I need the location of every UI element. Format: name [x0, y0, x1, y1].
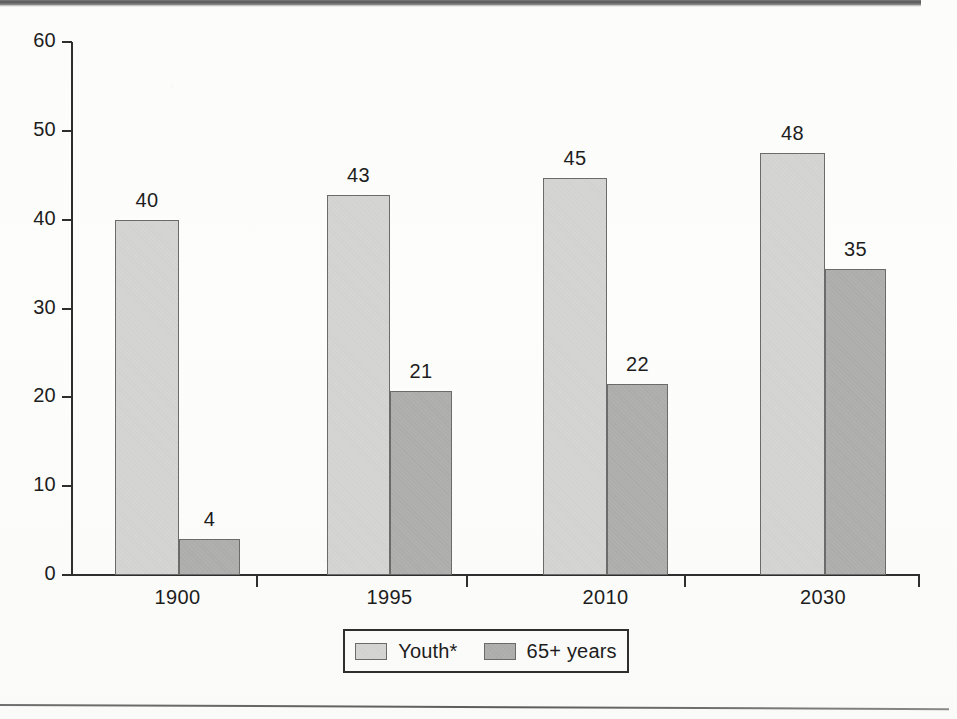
y-axis-tick-label-wrap: 20	[0, 384, 56, 408]
bar-1995-youth[interactable]	[327, 195, 390, 575]
x-axis-separator-tick	[684, 576, 686, 587]
y-axis-tick	[62, 130, 72, 132]
y-axis-tick-label-wrap: 60	[0, 29, 56, 53]
legend-item-seniors[interactable]: 65+ years	[484, 640, 617, 663]
bar-value-label: 43	[307, 164, 410, 187]
y-axis-tick-label: 30	[10, 296, 56, 319]
bar-value-label: 40	[95, 189, 199, 212]
bar-value-label: 48	[740, 122, 845, 145]
bar-value-label: 35	[805, 238, 906, 261]
bar-chart-plot-area: 0102030405060 404432145224835 1900199520…	[0, 0, 957, 719]
y-axis-tick	[62, 219, 72, 221]
y-axis-tick-label: 20	[10, 384, 56, 407]
y-axis-tick-label: 0	[10, 562, 56, 585]
chart-legend: Youth* 65+ years	[343, 629, 629, 673]
x-axis-group-label-2030: 2030	[763, 586, 883, 609]
bar-value-label: 4	[159, 508, 260, 531]
y-axis-tick-label-wrap: 30	[0, 296, 56, 320]
y-axis-tick	[62, 41, 72, 43]
legend-swatch-seniors-icon	[484, 643, 516, 660]
bar-2030-seniors[interactable]	[825, 269, 886, 575]
chart-page: 0102030405060 404432145224835 1900199520…	[0, 0, 957, 719]
legend-label-seniors: 65+ years	[527, 640, 617, 663]
x-axis-end-tick	[918, 576, 920, 587]
y-axis-tick-label: 50	[10, 118, 56, 141]
y-axis-tick	[62, 308, 72, 310]
y-axis-tick-label: 10	[10, 473, 56, 496]
legend-swatch-youth-icon	[355, 643, 387, 660]
y-axis-tick-label-wrap: 10	[0, 473, 56, 497]
legend-item-youth[interactable]: Youth*	[355, 640, 457, 663]
x-axis-group-label-2010: 2010	[546, 586, 666, 609]
y-axis-tick-label-wrap: 50	[0, 118, 56, 142]
bar-2030-youth[interactable]	[760, 153, 825, 575]
y-axis-tick	[62, 485, 72, 487]
y-axis-tick-label-wrap: 0	[0, 562, 56, 586]
x-axis-group-label-1995: 1995	[330, 586, 450, 609]
bar-value-label: 21	[370, 360, 472, 383]
bar-2010-youth[interactable]	[543, 178, 607, 575]
x-axis-separator-tick	[466, 576, 468, 587]
y-axis-tick-label: 40	[10, 207, 56, 230]
x-axis-group-label-1900: 1900	[118, 586, 238, 609]
legend-label-youth: Youth*	[398, 640, 457, 663]
y-axis-tick	[62, 396, 72, 398]
bar-value-label: 22	[587, 353, 688, 376]
bar-2010-seniors[interactable]	[607, 384, 668, 575]
y-axis-tick	[62, 574, 72, 576]
bar-1995-seniors[interactable]	[390, 391, 452, 575]
x-axis-separator-tick	[256, 576, 258, 587]
bar-value-label: 45	[523, 147, 627, 170]
bar-1900-seniors[interactable]	[179, 539, 240, 575]
y-axis-tick-label-wrap: 40	[0, 207, 56, 231]
y-axis-tick-label: 60	[10, 29, 56, 52]
